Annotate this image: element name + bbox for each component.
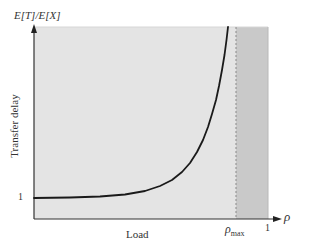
operating-region	[34, 27, 236, 219]
y-tick-1: 1	[18, 191, 23, 202]
chart-canvas	[0, 0, 309, 249]
x-axis-label: Load	[126, 228, 149, 240]
x-tick-1: 1	[265, 222, 270, 233]
y-axis-top-label: E[T]/E[X]	[14, 9, 60, 21]
x-axis-arrow-icon	[273, 216, 282, 222]
x-axis-variable: ρ	[284, 209, 290, 225]
overload-region	[236, 27, 268, 219]
x-tick-rho-max-sub: max	[231, 229, 245, 238]
y-axis-label: Transfer delay	[8, 94, 20, 157]
x-tick-rho-max: ρmax	[225, 222, 245, 238]
